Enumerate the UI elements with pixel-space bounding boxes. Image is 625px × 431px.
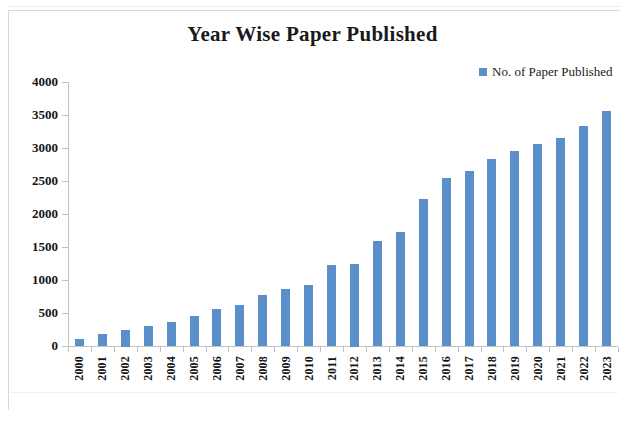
x-axis-tick-mark — [435, 347, 436, 352]
x-axis-tick-label: 2011 — [326, 356, 338, 380]
x-axis-tick-label: 2021 — [555, 356, 567, 381]
y-axis-tick-label: 1000 — [0, 273, 58, 286]
x-axis-tick-mark — [297, 347, 298, 352]
bar-2023 — [602, 111, 611, 346]
x-axis-tick-label: 2017 — [463, 356, 475, 381]
x-axis-tick-mark — [114, 347, 115, 352]
y-axis-tick-label: 4000 — [0, 75, 58, 88]
bar-2009 — [281, 289, 290, 346]
x-axis-tick-mark — [68, 347, 69, 352]
x-axis-tick-mark — [274, 347, 275, 352]
y-axis-tick-mark — [62, 214, 68, 215]
x-axis-tick-mark — [206, 347, 207, 352]
page-border-bottom — [10, 392, 618, 393]
bar-2014 — [396, 232, 405, 346]
y-axis-tick-mark — [62, 115, 68, 116]
page-border-top — [8, 10, 620, 11]
y-axis-tick-mark — [62, 280, 68, 281]
y-axis-tick-mark — [62, 148, 68, 149]
bar-2013 — [373, 241, 382, 346]
x-axis-tick-label: 2014 — [394, 356, 406, 381]
bar-2017 — [465, 171, 474, 346]
x-axis-tick-label: 2005 — [188, 356, 200, 381]
x-axis-tick-mark — [320, 347, 321, 352]
x-axis-tick-label: 2000 — [73, 356, 85, 381]
x-axis-tick-label: 2004 — [165, 356, 177, 381]
x-axis-tick-label: 2018 — [486, 356, 498, 381]
bar-2000 — [75, 339, 84, 346]
x-axis-tick-mark — [160, 347, 161, 352]
x-axis-tick-mark — [458, 347, 459, 352]
x-axis-tick-mark — [228, 347, 229, 352]
x-axis-tick-mark — [366, 347, 367, 352]
legend-item-label: No. of Paper Published — [492, 64, 613, 80]
bar-2016 — [442, 178, 451, 346]
bar-2022 — [579, 126, 588, 346]
x-axis-tick-mark — [412, 347, 413, 352]
bar-2005 — [190, 316, 199, 346]
legend-color-swatch — [479, 68, 487, 76]
x-axis-tick-label: 2001 — [96, 356, 108, 381]
bar-2004 — [167, 322, 176, 346]
bar-2003 — [144, 326, 153, 346]
bar-2010 — [304, 285, 313, 346]
x-axis-tick-mark — [595, 347, 596, 352]
x-axis-tick-mark — [481, 347, 482, 352]
bar-2019 — [510, 151, 519, 346]
x-axis-tick-mark — [618, 347, 619, 352]
x-axis-tick-mark — [343, 347, 344, 352]
x-axis-tick-label: 2015 — [417, 356, 429, 381]
chart-page: Year Wise Paper Published No. of Paper P… — [0, 0, 625, 431]
x-axis-tick-mark — [549, 347, 550, 352]
x-axis-tick-mark — [572, 347, 573, 352]
x-axis-tick-label: 2010 — [303, 356, 315, 381]
x-axis-tick-label: 2013 — [371, 356, 383, 381]
bar-2001 — [98, 334, 107, 346]
bar-2018 — [487, 159, 496, 346]
x-axis-tick-label: 2016 — [440, 356, 452, 381]
chart-title: Year Wise Paper Published — [0, 22, 625, 47]
chart-legend: No. of Paper Published — [479, 64, 613, 80]
y-axis-tick-label: 500 — [0, 306, 58, 319]
x-axis-tick-mark — [183, 347, 184, 352]
y-axis-tick-label: 1500 — [0, 240, 58, 253]
bar-2008 — [258, 295, 267, 346]
x-axis-tick-label: 2009 — [280, 356, 292, 381]
bar-2015 — [419, 199, 428, 346]
x-axis-tick-mark — [526, 347, 527, 352]
x-axis-tick-mark — [503, 347, 504, 352]
bar-2020 — [533, 144, 542, 346]
y-axis-tick-label: 2500 — [0, 174, 58, 187]
y-axis-tick-mark — [62, 82, 68, 83]
x-axis-tick-label: 2022 — [578, 356, 590, 381]
x-axis-tick-label: 2020 — [532, 356, 544, 381]
x-axis-tick-label: 2019 — [509, 356, 521, 381]
x-axis-tick-mark — [137, 347, 138, 352]
x-axis-tick-label: 2008 — [257, 356, 269, 381]
bar-2021 — [556, 138, 565, 346]
page-border-top-outer — [8, 6, 620, 7]
y-axis-tick-mark — [62, 313, 68, 314]
x-axis-tick-label: 2023 — [601, 356, 613, 381]
x-axis-tick-label: 2012 — [348, 356, 360, 381]
bar-2006 — [212, 309, 221, 346]
x-axis-tick-mark — [389, 347, 390, 352]
x-axis-tick-mark — [91, 347, 92, 352]
x-axis-tick-label: 2006 — [211, 356, 223, 381]
y-axis-tick-mark — [62, 181, 68, 182]
y-axis-tick-label: 3500 — [0, 108, 58, 121]
y-axis-line — [68, 82, 69, 347]
bar-2012 — [350, 264, 359, 347]
x-axis-tick-mark — [251, 347, 252, 352]
y-axis-tick-label: 0 — [0, 339, 58, 352]
y-axis-tick-label: 3000 — [0, 141, 58, 154]
x-axis-tick-label: 2002 — [119, 356, 131, 381]
y-axis-tick-label: 2000 — [0, 207, 58, 220]
bar-2007 — [235, 305, 244, 346]
x-axis-tick-label: 2007 — [234, 356, 246, 381]
bar-2011 — [327, 265, 336, 346]
bar-2002 — [121, 330, 130, 347]
x-axis-tick-label: 2003 — [142, 356, 154, 381]
y-axis-tick-mark — [62, 247, 68, 248]
